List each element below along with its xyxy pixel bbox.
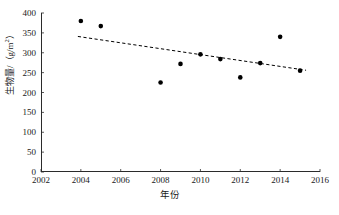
data-points <box>79 19 303 85</box>
data-point <box>178 62 183 67</box>
data-point <box>79 19 84 24</box>
data-point <box>278 35 283 40</box>
chart-figure: 050100150200250300350400 200220042006200… <box>0 0 339 215</box>
trendline <box>78 36 306 70</box>
data-point <box>98 24 103 29</box>
chart-canvas <box>0 0 339 215</box>
data-point <box>298 68 303 73</box>
data-point <box>198 52 203 57</box>
data-point <box>218 57 223 62</box>
data-point <box>258 61 263 66</box>
data-point <box>238 75 243 80</box>
data-point <box>158 80 163 85</box>
